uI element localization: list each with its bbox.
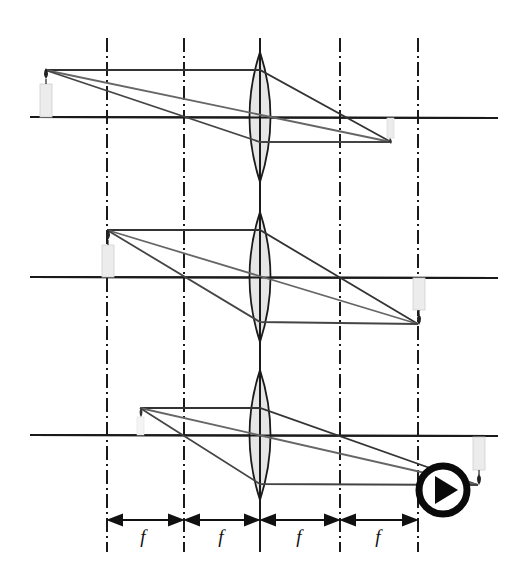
candle-object-2 (102, 229, 114, 277)
focal-label-1: f (140, 526, 148, 547)
lens-diagram: f f f f (0, 0, 525, 574)
focal-dimensions (109, 515, 416, 525)
focal-label-2: f (218, 526, 226, 547)
play-button[interactable] (419, 466, 467, 514)
focal-label-4: f (375, 526, 383, 547)
candle-object-3 (137, 408, 144, 435)
candle-image-2 (413, 278, 425, 325)
focal-label-3: f (296, 526, 304, 547)
candle-image-3 (473, 437, 485, 485)
axis-overlay-1 (30, 117, 498, 118)
candle-object-1 (40, 68, 52, 117)
